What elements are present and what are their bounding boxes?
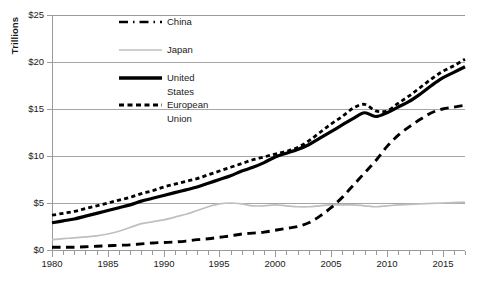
x-tick-mark-1986: [119, 251, 120, 255]
x-tick-mark-1988: [141, 251, 142, 255]
x-tick-mark-2002: [298, 251, 299, 255]
x-tick-mark-2011: [398, 251, 399, 255]
x-tick-mark-2010: [387, 251, 388, 257]
x-tick-mark-1982: [74, 251, 75, 255]
x-tick-mark-2009: [376, 251, 377, 255]
x-tick-mark-1984: [97, 251, 98, 255]
gdp-line-chart: Trillions $0$5$10$15$20$25 1980198519901…: [0, 0, 480, 284]
x-tick-mark-2016: [454, 251, 455, 255]
series-line-european-union: [52, 59, 465, 215]
legend-label-european-union-2: Union: [167, 113, 192, 124]
series-line-china: [52, 105, 465, 247]
x-tick-mark-1994: [208, 251, 209, 255]
x-tick-mark-1990: [164, 251, 165, 257]
x-tick-mark-2000: [275, 251, 276, 257]
x-tick-mark-1995: [219, 251, 220, 257]
y-tick-label-25: $25: [10, 10, 44, 20]
x-tick-label-1985: 1985: [88, 258, 128, 269]
x-tick-mark-2007: [353, 251, 354, 255]
y-tick-label-15: $15: [10, 104, 44, 114]
x-tick-mark-1983: [85, 251, 86, 255]
x-tick-label-2015: 2015: [423, 258, 463, 269]
legend-label-european-union: European: [167, 99, 208, 110]
x-tick-mark-2013: [420, 251, 421, 255]
x-tick-mark-2014: [432, 251, 433, 255]
x-tick-mark-2008: [365, 251, 366, 255]
x-tick-label-2010: 2010: [367, 258, 407, 269]
x-tick-mark-1997: [242, 251, 243, 255]
x-tick-mark-2006: [342, 251, 343, 255]
x-tick-label-1990: 1990: [144, 258, 184, 269]
y-tick-label-10: $10: [10, 151, 44, 161]
legend-label-china: China: [167, 16, 192, 27]
x-tick-mark-1998: [253, 251, 254, 255]
x-tick-mark-2015: [443, 251, 444, 257]
x-tick-mark-1980: [52, 251, 53, 257]
legend-label-japan: Japan: [167, 44, 193, 55]
x-tick-mark-2001: [286, 251, 287, 255]
legend-label-united-states-2: States: [167, 86, 194, 97]
x-tick-mark-2017: [465, 251, 466, 255]
x-tick-mark-2003: [309, 251, 310, 255]
plot-area: [52, 15, 465, 250]
x-tick-label-2005: 2005: [311, 258, 351, 269]
x-tick-mark-1991: [175, 251, 176, 255]
x-tick-mark-2004: [320, 251, 321, 255]
x-tick-label-1980: 1980: [32, 258, 72, 269]
y-tick-label-20: $20: [10, 57, 44, 67]
x-tick-mark-1981: [63, 251, 64, 255]
x-tick-mark-1987: [130, 251, 131, 255]
y-tick-label-5: $5: [10, 198, 44, 208]
legend-label-united-states: United: [167, 72, 194, 83]
x-tick-label-2000: 2000: [255, 258, 295, 269]
series-lines: [52, 15, 465, 250]
x-tick-label-1995: 1995: [199, 258, 239, 269]
x-tick-mark-2012: [409, 251, 410, 255]
x-tick-mark-1989: [152, 251, 153, 255]
x-tick-mark-1992: [186, 251, 187, 255]
x-tick-mark-1999: [264, 251, 265, 255]
x-tick-mark-1996: [231, 251, 232, 255]
x-tick-mark-1993: [197, 251, 198, 255]
x-tick-mark-1985: [108, 251, 109, 257]
x-tick-mark-2005: [331, 251, 332, 257]
x-axis-line: [52, 250, 465, 251]
y-tick-label-0: $0: [10, 245, 44, 255]
series-line-united-states: [52, 67, 465, 223]
